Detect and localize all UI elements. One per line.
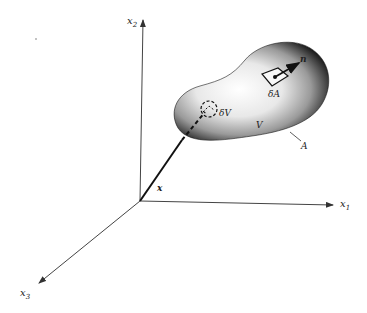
x2-axis	[140, 20, 143, 201]
speck	[35, 38, 37, 40]
x3-label: x3	[20, 287, 31, 301]
continuum-body-diagram: x2 x1 x3 x δV δA n V A	[0, 0, 367, 313]
x2-label: x2	[127, 15, 138, 29]
normal-label: n	[300, 54, 307, 64]
surface-label: A	[300, 141, 308, 151]
x3-axis	[39, 201, 140, 283]
x1-axis	[140, 201, 333, 205]
surface-leader	[290, 132, 301, 141]
area-element-label: δA	[268, 89, 280, 99]
x1-label: x1	[340, 198, 350, 212]
position-vector-label: x	[156, 183, 163, 193]
volume-element-label: δV	[219, 108, 232, 118]
